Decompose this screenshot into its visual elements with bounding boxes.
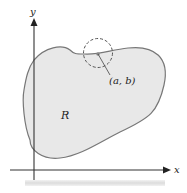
diagram-labels: y x R (a, b) (0, 0, 187, 193)
y-axis-label: y (29, 6, 36, 17)
region-label: R (60, 109, 69, 122)
bottom-shade-bar (25, 180, 165, 186)
x-axis-label: x (174, 164, 180, 175)
diagram-canvas: y x R (a, b) (0, 0, 187, 193)
point-label: (a, b) (109, 75, 136, 86)
